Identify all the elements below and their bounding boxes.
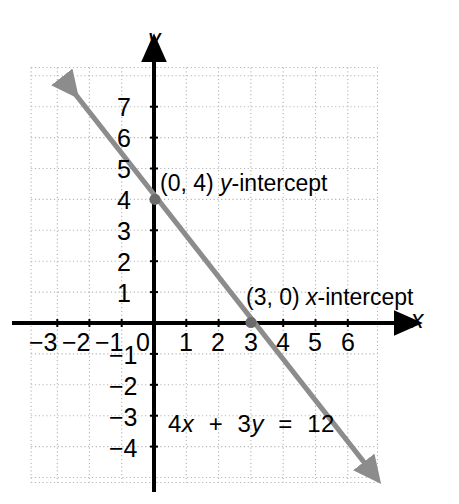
x-tick-label-1: 1 [179, 330, 193, 355]
equation-plus: + [209, 410, 224, 437]
x-intercept-annotation: (3, 0) x-intercept [246, 286, 413, 309]
x-tick-label-neg2: −2 [62, 330, 91, 355]
x-tick-label-3: 3 [244, 330, 258, 355]
y-intercept-coords: (0, 4) [160, 170, 214, 196]
y-tick-label-2: 2 [117, 250, 131, 275]
y-tick-label-4: 4 [117, 188, 131, 213]
x-tick-label-neg3: −3 [29, 330, 58, 355]
x-intercept-coords: (3, 0) [246, 284, 300, 310]
x-intercept-suffix: -intercept [318, 284, 414, 310]
equation-coef-y: 3 [238, 410, 252, 437]
y-intercept-point [149, 194, 160, 205]
x-intercept-variable: x [306, 284, 318, 310]
x-axis-label: x [411, 307, 424, 332]
y-tick-label-7: 7 [117, 95, 131, 120]
graph-figure: y x 7 6 5 4 3 2 1 −1 −2 −3 −4 −3 −2 −1 0… [0, 0, 459, 504]
y-axis-label: y [148, 26, 161, 51]
y-tick-label-neg3: −3 [109, 405, 138, 430]
y-intercept-variable: y [220, 170, 232, 196]
equation-label: 4x + 3y = 12 [168, 412, 335, 436]
x-tick-label-neg1: −1 [95, 330, 124, 355]
x-tick-label-0: 0 [136, 330, 150, 355]
x-tick-label-4: 4 [276, 330, 290, 355]
x-tick-label-2: 2 [211, 330, 225, 355]
equation-constant: 12 [307, 410, 335, 437]
y-intercept-annotation: (0, 4) y-intercept [160, 172, 327, 195]
x-tick-label-5: 5 [308, 330, 322, 355]
y-tick-label-3: 3 [117, 219, 131, 244]
equation-var-x: x [182, 410, 195, 437]
y-intercept-suffix: -intercept [232, 170, 328, 196]
y-tick-label-5: 5 [117, 157, 131, 182]
x-tick-label-6: 6 [341, 330, 355, 355]
equation-equals: = [278, 410, 293, 437]
y-tick-label-neg2: −2 [109, 374, 138, 399]
x-intercept-point [245, 317, 256, 328]
y-tick-label-1: 1 [117, 281, 131, 306]
y-tick-label-6: 6 [117, 126, 131, 151]
y-tick-label-neg4: −4 [109, 436, 138, 461]
equation-coef-x: 4 [168, 410, 182, 437]
equation-var-y: y [251, 410, 264, 437]
